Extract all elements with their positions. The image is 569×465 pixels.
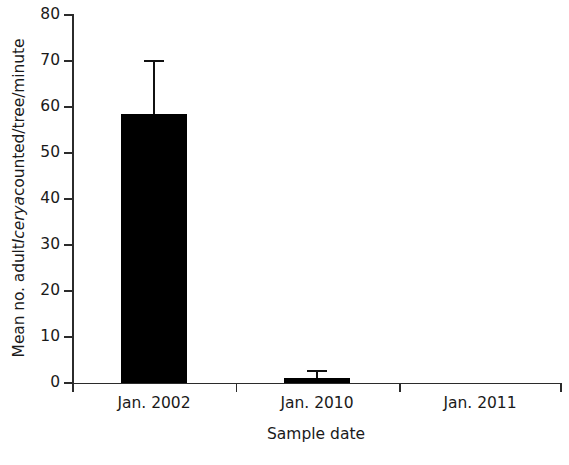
y-axis-tick-label-text: 50 (16, 145, 60, 161)
x-axis-category-label: Jan. 2010 (232, 394, 402, 412)
y-axis-tick-label: 70 (8, 53, 60, 69)
x-axis-tick (560, 383, 562, 392)
y-axis-tick-label: 50 (8, 145, 60, 161)
y-axis-tick-label: 20 (8, 283, 60, 299)
y-axis-tick-label-text: 80 (16, 7, 60, 23)
x-axis-tick (236, 383, 238, 392)
bars-layer (72, 15, 560, 383)
y-axis-tick-label: 80 (8, 7, 60, 23)
y-axis-tick-label-text: 0 (16, 375, 60, 391)
x-axis-tick (72, 383, 74, 392)
y-axis-tick-label: 30 (8, 237, 60, 253)
y-axis-tick-label: 40 (8, 191, 60, 207)
error-bar-cap (307, 370, 327, 372)
x-axis-tick (399, 383, 401, 392)
y-axis-tick-label-text: 30 (16, 237, 60, 253)
x-axis-category-label: Jan. 2002 (69, 394, 239, 412)
x-axis-category-label: Jan. 2011 (395, 394, 565, 412)
bar (121, 114, 187, 383)
error-bar-stem (316, 371, 318, 378)
y-axis-tick-label: 60 (8, 99, 60, 115)
chart-container: Mean no. adult Icerya counted/tree/minut… (0, 0, 569, 465)
error-bar-stem (153, 61, 155, 114)
y-axis-tick-label-text: 20 (16, 283, 60, 299)
error-bar-cap (144, 60, 164, 62)
y-axis-tick-label-text: 10 (16, 329, 60, 345)
x-axis-title: Sample date (72, 425, 560, 443)
y-axis-tick-label-text: 40 (16, 191, 60, 207)
y-axis-tick-label: 10 (8, 329, 60, 345)
y-axis-tick-label: 0 (8, 375, 60, 391)
bar (284, 378, 350, 383)
y-axis-tick-label-text: 60 (16, 99, 60, 115)
y-axis-tick-label-text: 70 (16, 53, 60, 69)
